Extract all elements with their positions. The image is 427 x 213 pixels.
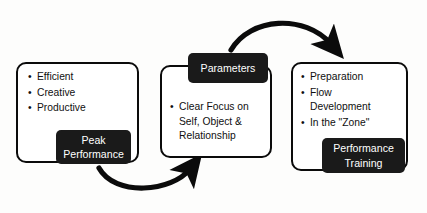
stage-label-performance-training: Performance Training xyxy=(322,138,405,173)
arrow-peak-to-params xyxy=(99,168,190,188)
arrow-params-to-training xyxy=(231,23,331,50)
list-item: Clear Focus on Self, Object & Relationsh… xyxy=(170,100,270,144)
bullet-list-peak-performance: Efficient Creative Productive xyxy=(28,70,132,117)
list-item: Flow Development xyxy=(301,86,405,115)
diagram-canvas: Efficient Creative Productive Clear Focu… xyxy=(0,0,427,213)
list-item: Preparation xyxy=(301,70,405,85)
stage-label-peak-performance: Peak Performance xyxy=(56,130,131,164)
list-item: Productive xyxy=(28,101,132,116)
list-item: Efficient xyxy=(28,70,132,85)
stage-label-parameters: Parameters xyxy=(188,53,268,83)
bullet-list-performance-training: Preparation Flow Development In the "Zon… xyxy=(301,70,405,131)
bullet-list-parameters: Clear Focus on Self, Object & Relationsh… xyxy=(170,100,270,145)
list-item: Creative xyxy=(28,86,132,101)
list-item: In the "Zone" xyxy=(301,116,405,131)
